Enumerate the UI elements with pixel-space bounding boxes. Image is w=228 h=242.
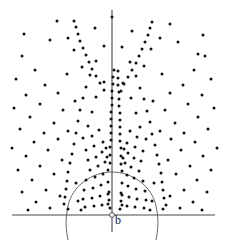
field-dot (59, 195, 62, 198)
field-dot (47, 149, 50, 152)
field-dot (73, 49, 76, 52)
axes-group (12, 10, 215, 232)
field-dot (187, 103, 190, 106)
field-dot (107, 169, 110, 172)
field-dot (119, 112, 122, 115)
field-dot (94, 176, 97, 179)
field-dot (66, 73, 69, 76)
field-dot (77, 33, 80, 36)
field-dot (193, 69, 196, 72)
field-dot (152, 100, 155, 103)
field-dot (93, 205, 96, 208)
field-dot (63, 203, 66, 206)
field-dot (119, 133, 122, 136)
field-dot (129, 61, 132, 64)
field-dot (82, 47, 85, 50)
field-dot (111, 97, 114, 100)
field-dot (53, 173, 56, 176)
field-dot (103, 45, 106, 48)
left-arc (66, 172, 112, 240)
field-dot (91, 68, 94, 71)
field-dot (183, 132, 186, 135)
field-dot (17, 169, 20, 172)
origin-marker-group (110, 213, 115, 218)
field-dot (110, 125, 113, 128)
field-dot (182, 84, 185, 87)
field-dot (140, 160, 143, 163)
field-dot (134, 206, 137, 209)
field-dot (196, 179, 199, 182)
field-dot (111, 90, 114, 93)
field-dot (57, 92, 60, 95)
field-dot (139, 126, 142, 129)
field-dot (45, 189, 48, 192)
field-dot (162, 208, 165, 211)
field-dot (105, 147, 108, 150)
field-dot (73, 20, 76, 23)
field-dot (197, 53, 200, 56)
field-dot (136, 136, 139, 139)
field-dot (88, 61, 91, 64)
field-dot (91, 111, 94, 114)
field-dot (67, 208, 70, 211)
field-dot (67, 130, 70, 133)
field-dot (169, 195, 172, 198)
figure-container: b (0, 0, 228, 242)
field-dot (204, 55, 207, 58)
field-dot (99, 195, 102, 198)
field-dot (108, 191, 111, 194)
field-dot (202, 34, 205, 37)
field-dot (123, 83, 126, 86)
field-dot (127, 152, 130, 155)
field-dot (111, 16, 114, 19)
field-dot (66, 180, 69, 183)
field-dot (109, 207, 112, 210)
field-dot (103, 81, 106, 84)
field-dot (189, 165, 192, 168)
field-dot (135, 62, 138, 65)
field-dot (153, 182, 156, 185)
field-dot (69, 162, 72, 165)
field-dot (127, 185, 130, 188)
field-dot (213, 107, 216, 110)
field-dot (120, 192, 123, 195)
field-dot (143, 65, 146, 68)
field-dot (49, 39, 52, 42)
field-dot (119, 208, 122, 211)
field-dot (128, 196, 131, 199)
field-dot (207, 128, 210, 131)
field-dot (44, 84, 47, 87)
field-dot (151, 133, 154, 136)
field-dot (49, 207, 52, 210)
field-dot (100, 184, 103, 187)
field-dot (106, 156, 109, 159)
field-dot (75, 26, 78, 29)
field-dot (77, 200, 80, 203)
field-dot (165, 204, 168, 207)
field-dot (113, 69, 116, 72)
field-dot (99, 82, 102, 85)
field-dot (107, 203, 110, 206)
field-dot (13, 107, 16, 110)
field-dot (159, 37, 162, 40)
field-dot (39, 103, 42, 106)
field-dot (142, 180, 145, 183)
field-dot (159, 130, 162, 133)
field-dot (82, 137, 85, 140)
field-dot (61, 159, 64, 162)
field-dot (77, 120, 80, 123)
field-dot (89, 74, 92, 77)
field-dot (102, 141, 105, 144)
field-dot (102, 173, 105, 176)
field-dot (130, 97, 133, 100)
field-dot (162, 189, 165, 192)
field-dot (87, 159, 90, 162)
field-dot (103, 89, 106, 92)
field-dot (39, 165, 42, 168)
field-dot (129, 130, 132, 133)
field-dot (143, 207, 146, 210)
field-dot (161, 181, 164, 184)
field-dot (177, 41, 180, 44)
field-dot (118, 98, 121, 101)
field-dot (197, 116, 200, 119)
